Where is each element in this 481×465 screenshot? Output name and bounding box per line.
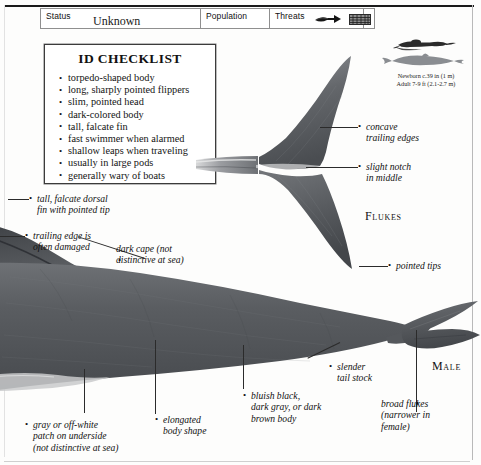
harpoon-icon <box>314 13 342 25</box>
upper-fluke-shape <box>259 56 351 169</box>
annotation-elongated-body: elongated body shape <box>163 414 206 437</box>
list-item: tall, falcate fin <box>59 121 215 133</box>
list-item: long, sharply pointed flippers <box>59 84 215 96</box>
status-value: Unknown <box>93 14 140 29</box>
status-bar: Status Unknown Population Unknown Threat… <box>4 8 470 29</box>
tail-stock-shape <box>196 156 258 174</box>
threats-cell: Threats <box>269 8 364 29</box>
bottom-rule <box>4 461 470 462</box>
list-item: torpedo-shaped body <box>59 72 215 84</box>
leader-dorsal-fin <box>8 199 29 200</box>
leader-gray-patch <box>84 369 85 413</box>
population-label: Population <box>206 11 247 21</box>
annotation-slender-tail-stock: slender tail stock <box>337 361 372 384</box>
annotation-concave-trailing-edges: concave trailing edges <box>366 121 419 144</box>
leader-bluish-black <box>243 345 244 389</box>
list-item: generally wary of boats <box>59 170 215 182</box>
threat-icon-group <box>314 13 371 25</box>
checklist-title: ID CHECKLIST <box>45 51 215 67</box>
id-checklist-box: ID CHECKLIST torpedo-shaped body long, s… <box>44 44 216 184</box>
top-rule <box>4 5 474 7</box>
annotation-gray-patch: gray or off-white patch on underside (no… <box>33 419 119 453</box>
flukes-caption: Flukes <box>365 209 402 224</box>
list-item: shallow leaps when traveling <box>59 145 215 157</box>
leader-notch <box>306 167 358 168</box>
leader-trailing-edge <box>0 236 25 237</box>
list-item: dark-colored body <box>59 109 215 121</box>
leader-concave <box>320 127 358 128</box>
checklist-list: torpedo-shaped body long, sharply pointe… <box>59 72 215 182</box>
newborn-size-text: Newborn c.39 in (1 m) <box>376 72 476 80</box>
leader-elongated-body <box>155 340 156 414</box>
size-scale-block: Newborn c.39 in (1 m) Adult 7-9 ft (2.1-… <box>376 36 476 87</box>
size-comparison-art <box>376 36 476 72</box>
threats-label: Threats <box>275 11 305 21</box>
list-item: slim, pointed head <box>59 96 215 108</box>
adult-size-text: Adult 7-9 ft (2.1-2.7 m) <box>376 80 476 88</box>
annotation-tall-falcate-dorsal-fin: tall, falcate dorsal fin with pointed ti… <box>37 193 110 216</box>
annotation-slight-notch: slight notch in middle <box>366 161 411 184</box>
male-caption: Male <box>432 359 461 374</box>
annotation-broad-flukes: broad flukes (narrower in female) <box>381 398 430 432</box>
status-cell: Status Unknown <box>40 8 215 29</box>
list-item: usually in large pods <box>59 157 215 169</box>
drift-net-icon <box>349 14 371 25</box>
tail-flukes-shape <box>402 301 480 349</box>
annotation-bluish-black-body: bluish black, dark gray, or dark brown b… <box>251 390 321 424</box>
annotation-dark-cape: dark cape (not distinctive at sea) <box>116 243 184 266</box>
list-item: fast swimmer when alarmed <box>59 133 215 145</box>
status-label: Status <box>46 11 71 21</box>
dolphin-silhouette-icon <box>382 54 464 66</box>
field-guide-page: Status Unknown Population Unknown Threat… <box>0 0 481 465</box>
human-swimmer-icon <box>393 40 456 51</box>
annotation-trailing-edge-damaged: trailing edge is often damaged <box>33 230 91 253</box>
